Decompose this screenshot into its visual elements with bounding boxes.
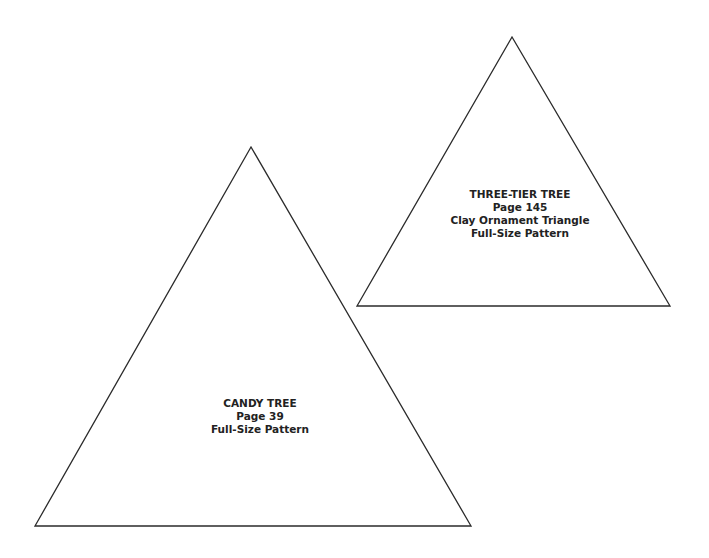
- three-tier-tree-description: Clay Ornament Triangle: [440, 214, 600, 227]
- three-tier-tree-triangle-outline: [357, 37, 670, 306]
- candy-tree-label: CANDY TREE Page 39 Full-Size Pattern: [180, 397, 340, 436]
- candy-tree-triangle-outline: [35, 147, 471, 526]
- candy-tree-title: CANDY TREE: [180, 397, 340, 410]
- candy-tree-page: Page 39: [180, 410, 340, 423]
- three-tier-tree-size: Full-Size Pattern: [440, 227, 600, 240]
- three-tier-tree-label: THREE-TIER TREE Page 145 Clay Ornament T…: [440, 188, 600, 240]
- three-tier-tree-title: THREE-TIER TREE: [440, 188, 600, 201]
- candy-tree-size: Full-Size Pattern: [180, 423, 340, 436]
- pattern-sheet: [0, 0, 709, 558]
- three-tier-tree-page: Page 145: [440, 201, 600, 214]
